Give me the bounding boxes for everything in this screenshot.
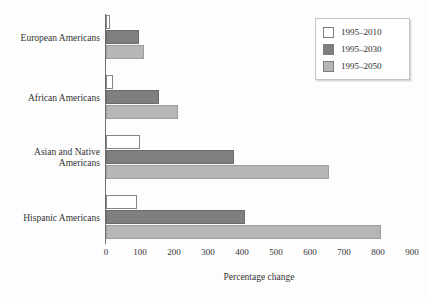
x-tick-label: 600 [303, 247, 317, 257]
category-label-line: African Americans [2, 93, 100, 104]
chart-figure: European AmericansAfrican AmericansAsian… [0, 0, 427, 301]
chart-legend: 1995–20101995–20301995–2050 [315, 18, 410, 80]
bar [106, 105, 178, 119]
bar [106, 165, 329, 179]
legend-swatch-icon [323, 61, 334, 72]
bar [106, 45, 144, 59]
category-axis-labels: European AmericansAfrican AmericansAsian… [0, 14, 100, 244]
bar [106, 30, 139, 44]
category-label: Hispanic Americans [2, 213, 100, 224]
bar [106, 15, 110, 29]
bar [106, 135, 140, 149]
bar [106, 195, 137, 209]
legend-label: 1995–2030 [341, 44, 382, 54]
x-tick-label: 700 [337, 247, 351, 257]
legend-label: 1995–2010 [341, 27, 382, 37]
category-label-line: Americans [2, 158, 100, 169]
legend-swatch-icon [323, 44, 334, 55]
category-label-line: European Americans [2, 33, 100, 44]
legend-swatch-icon [323, 27, 334, 38]
bar [106, 150, 234, 164]
bar [106, 90, 159, 104]
legend-label: 1995–2050 [341, 61, 382, 71]
category-label: African Americans [2, 93, 100, 104]
x-tick-label: 200 [167, 247, 181, 257]
x-tick-label: 0 [104, 247, 109, 257]
legend-item: 1995–2030 [323, 42, 403, 56]
x-tick-label: 900 [405, 247, 419, 257]
legend-item: 1995–2010 [323, 25, 403, 39]
bar [106, 75, 113, 89]
bar [106, 225, 381, 239]
x-axis-title: Percentage change [106, 272, 412, 282]
bar [106, 210, 245, 224]
x-tick-label: 100 [133, 247, 147, 257]
bar-group [106, 194, 412, 242]
x-tick-label: 500 [269, 247, 283, 257]
category-label: Asian and NativeAmericans [2, 147, 100, 169]
x-tick-label: 800 [371, 247, 385, 257]
category-label-line: Asian and Native [2, 147, 100, 158]
x-axis: 0100200300400500600700800900 [106, 243, 412, 244]
bar-group [106, 74, 412, 122]
x-tick-label: 400 [235, 247, 249, 257]
legend-item: 1995–2050 [323, 59, 403, 73]
category-label-line: Hispanic Americans [2, 213, 100, 224]
category-label: European Americans [2, 33, 100, 44]
x-tick-label: 300 [201, 247, 215, 257]
bar-group [106, 134, 412, 182]
